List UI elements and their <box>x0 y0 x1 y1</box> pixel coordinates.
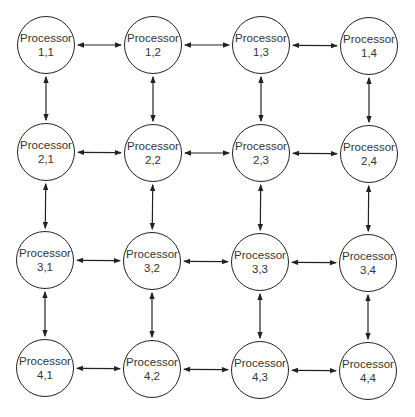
processor-label: Processor <box>126 355 178 369</box>
processor-node-3-4: Processor3,4 <box>339 234 397 292</box>
processor-label: Processor <box>234 248 286 262</box>
processor-node-1-2: Processor1,2 <box>124 16 182 74</box>
processor-index: 1,2 <box>145 45 161 59</box>
processor-node-1-3: Processor1,3 <box>232 16 290 74</box>
processor-node-4-1: Processor4,1 <box>16 339 74 397</box>
processor-index: 3,3 <box>252 262 268 276</box>
processor-node-3-3: Processor3,3 <box>231 233 289 291</box>
processor-label: Processor <box>19 354 71 368</box>
processor-index: 2,2 <box>145 153 161 167</box>
processor-label: Processor <box>343 140 395 154</box>
processor-label: Processor <box>127 139 179 153</box>
processor-index: 1,4 <box>361 46 377 60</box>
processor-label: Processor <box>20 138 72 152</box>
processor-index: 3,4 <box>360 263 376 277</box>
processor-node-4-4: Processor4,4 <box>339 342 397 400</box>
processor-node-2-4: Processor2,4 <box>340 125 398 183</box>
processor-label: Processor <box>126 247 178 261</box>
processor-index: 4,2 <box>144 369 160 383</box>
processor-label: Processor <box>342 357 394 371</box>
processor-index: 2,3 <box>253 153 269 167</box>
processor-node-3-2: Processor3,2 <box>123 232 181 290</box>
processor-label: Processor <box>342 249 394 263</box>
processor-index: 3,2 <box>144 261 160 275</box>
processor-index: 4,4 <box>360 371 376 385</box>
processor-node-4-2: Processor4,2 <box>123 340 181 398</box>
processor-index: 1,3 <box>253 45 269 59</box>
processor-index: 4,1 <box>37 368 53 382</box>
processor-index: 2,1 <box>38 152 54 166</box>
processor-label: Processor <box>20 31 72 45</box>
processor-node-2-2: Processor2,2 <box>124 124 182 182</box>
processor-node-1-1: Processor1,1 <box>17 16 75 74</box>
processor-node-2-3: Processor2,3 <box>232 124 290 182</box>
processor-index: 2,4 <box>361 154 377 168</box>
processor-index: 1,1 <box>38 45 54 59</box>
processor-index: 3,1 <box>37 260 53 274</box>
processor-label: Processor <box>127 31 179 45</box>
processor-node-2-1: Processor2,1 <box>17 123 75 181</box>
processor-node-3-1: Processor3,1 <box>16 231 74 289</box>
processor-label: Processor <box>19 246 71 260</box>
processor-label: Processor <box>235 31 287 45</box>
processor-label: Processor <box>235 139 287 153</box>
processor-index: 4,3 <box>252 370 268 384</box>
processor-node-4-3: Processor4,3 <box>231 341 289 399</box>
processor-label: Processor <box>343 32 395 46</box>
processor-node-1-4: Processor1,4 <box>340 17 398 75</box>
processor-label: Processor <box>234 356 286 370</box>
